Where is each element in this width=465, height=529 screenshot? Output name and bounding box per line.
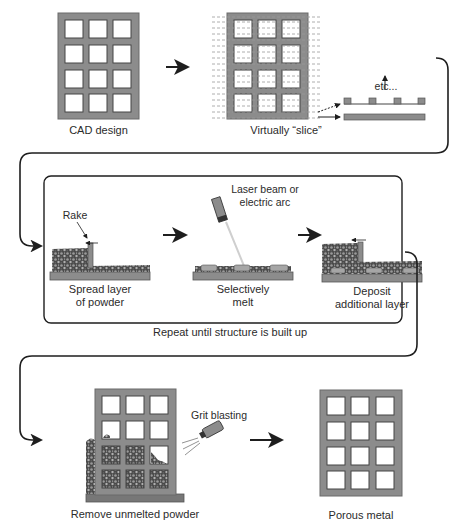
remove-powder-illustration [86,389,224,502]
porous-metal-label: Porous metal [311,509,411,522]
selectively-melt-label-line1: Selectively [193,283,293,296]
laser-source-label-line1: Laser beam or [225,183,305,196]
rake-icon [358,242,363,262]
cad-design-label: CAD design [58,124,139,137]
selectively-melt-label-line2: melt [193,296,293,309]
spread-layer-label-line1: Spread layer [50,283,150,296]
deposit-label-line1: Deposit [322,285,422,298]
rake-icon [88,243,93,268]
remove-powder-label: Remove unmelted powder [50,508,220,521]
rake-label: Rake [60,209,90,222]
porous-metal-grid [320,390,402,496]
laser-source-label-line2: electric arc [225,196,305,209]
cad-design-grid [58,13,139,119]
repeat-label: Repeat until structure is built up [120,326,340,339]
sliced-grid [212,13,322,119]
grit-blasting-label: Grit blasting [184,409,254,422]
deposit-label-line2: additional layer [322,298,422,311]
etc-label: etc... [368,80,404,93]
virtually-slice-label: Virtually “slice” [236,124,336,137]
spread-layer-label-line2: of powder [50,296,150,309]
grit-blaster-icon [198,420,224,440]
grit-spray [182,438,200,455]
